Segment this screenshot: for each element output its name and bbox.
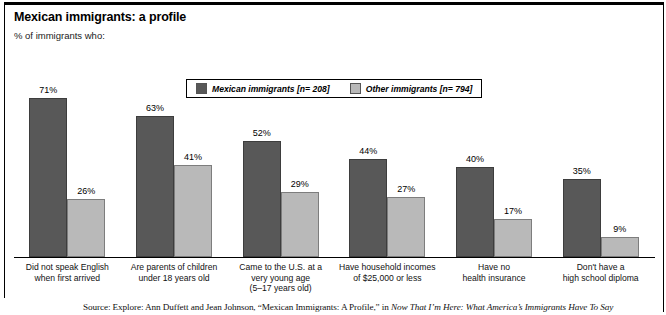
x-axis-label-2: Came to the U.S. at avery young age(5–17… [227, 262, 334, 294]
bar-series-0[interactable] [349, 159, 387, 257]
x-axis-label-line: Came to the U.S. at a [227, 262, 334, 273]
bar-column: 35% [563, 56, 601, 257]
bar-column: 40% [456, 56, 494, 257]
x-axis-label-line: Have household incomes [334, 262, 441, 273]
x-axis-label-line: of $25,000 or less [334, 273, 441, 284]
bar-group-3: 44%27% [334, 56, 441, 257]
chart-title: Mexican immigrants: a profile [14, 10, 186, 24]
bar-series-1[interactable] [174, 165, 212, 257]
x-axis-label-line: Are parents of children [121, 262, 228, 273]
bar-group-2: 52%29% [227, 56, 334, 257]
source-title: Now That I’m Here: What America’s Immigr… [391, 302, 613, 312]
x-axis-label-line: when first arrived [14, 273, 121, 284]
bar-column: 71% [29, 56, 67, 257]
bar-series-0[interactable] [136, 116, 174, 257]
chart-subtitle: % of immigrants who: [14, 30, 105, 41]
x-axis-label-line: health insurance [441, 273, 548, 284]
bar-group-5: 35%9% [547, 56, 654, 257]
chart-figure: Mexican immigrants: a profile % of immig… [0, 0, 666, 315]
bar-column: 26% [67, 56, 105, 257]
bar-series-1[interactable] [281, 192, 319, 257]
bar-column: 52% [243, 56, 281, 257]
bar-value-label: 35% [573, 167, 591, 176]
bar-group-4: 40%17% [441, 56, 548, 257]
bar-value-label: 52% [253, 129, 271, 138]
bar-series-0[interactable] [29, 98, 67, 257]
bar-value-label: 71% [39, 86, 57, 95]
bar-group-bars: 40%17% [441, 56, 548, 257]
top-rule-divider [4, 2, 664, 5]
bar-group-bars: 71%26% [14, 56, 121, 257]
bar-series-1[interactable] [387, 197, 425, 257]
bar-column: 29% [281, 56, 319, 257]
bar-value-label: 40% [466, 155, 484, 164]
bar-column: 63% [136, 56, 174, 257]
x-axis-baseline [14, 257, 655, 258]
bar-column: 27% [387, 56, 425, 257]
right-frame-edge [663, 2, 664, 312]
bar-value-label: 63% [146, 104, 164, 113]
bar-value-label: 44% [359, 147, 377, 156]
bar-group-0: 71%26% [14, 56, 121, 257]
bar-group-1: 63%41% [121, 56, 228, 257]
source-prefix: Source: Explore: Ann Duffett and Jean Jo… [83, 302, 391, 312]
bar-group-bars: 35%9% [547, 56, 654, 257]
bar-series-1[interactable] [601, 237, 639, 257]
bar-column: 17% [494, 56, 532, 257]
bar-group-bars: 63%41% [121, 56, 228, 257]
x-axis-label-5: Don't have ahigh school diploma [547, 262, 654, 283]
bar-group-bars: 44%27% [334, 56, 441, 257]
bar-value-label: 26% [77, 187, 95, 196]
bar-series-0[interactable] [563, 179, 601, 257]
bar-value-label: 41% [184, 153, 202, 162]
source-note: Source: Explore: Ann Duffett and Jean Jo… [83, 302, 613, 312]
bar-column: 41% [174, 56, 212, 257]
x-axis-label-line: under 18 years old [121, 273, 228, 284]
x-axis-label-1: Are parents of childrenunder 18 years ol… [121, 262, 228, 283]
bar-column: 44% [349, 56, 387, 257]
bar-series-1[interactable] [67, 199, 105, 257]
bar-value-label: 9% [613, 225, 626, 234]
x-axis-label-line: Did not speak English [14, 262, 121, 273]
bar-series-0[interactable] [243, 141, 281, 257]
bar-value-label: 27% [397, 185, 415, 194]
x-axis-label-line: high school diploma [547, 273, 654, 284]
x-axis-label-line: very young age [227, 273, 334, 284]
plot-area: 71%26%63%41%52%29%44%27%40%17%35%9% [14, 56, 654, 257]
bar-series-1[interactable] [494, 219, 532, 257]
x-axis-label-line: Don't have a [547, 262, 654, 273]
x-axis-label-line: Have no [441, 262, 548, 273]
bar-value-label: 17% [504, 207, 522, 216]
bar-series-0[interactable] [456, 167, 494, 257]
bar-value-label: 29% [291, 180, 309, 189]
bar-column: 9% [601, 56, 639, 257]
left-frame-edge [4, 2, 5, 298]
x-axis-label-4: Have nohealth insurance [441, 262, 548, 283]
x-axis-label-3: Have household incomesof $25,000 or less [334, 262, 441, 283]
x-axis-label-line: (5–17 years old) [227, 283, 334, 294]
bar-group-bars: 52%29% [227, 56, 334, 257]
x-axis-label-0: Did not speak Englishwhen first arrived [14, 262, 121, 283]
